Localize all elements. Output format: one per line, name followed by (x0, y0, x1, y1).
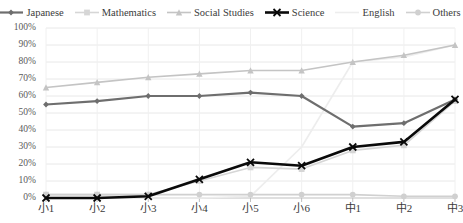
data-point-marker-diamond (248, 90, 254, 96)
data-point-marker-diamond (94, 98, 100, 104)
x-axis-tick-label: 小4 (191, 202, 208, 214)
data-point-marker-circle (196, 192, 202, 198)
data-point-marker-diamond (43, 102, 49, 108)
legend-label: Japanese (26, 7, 63, 18)
legend-label: Social Studies (194, 7, 254, 18)
legend-item-english[interactable]: English (335, 7, 394, 18)
plot-area: 100%90%80%70%60%50%40%30%20%10%0% 小1小2小3… (0, 22, 460, 223)
legend-item-social-studies[interactable]: Social Studies (167, 7, 254, 18)
x-axis-tick-label: 小6 (293, 202, 310, 214)
legend-item-science[interactable]: Science (265, 7, 325, 18)
legend-label: Science (292, 7, 325, 18)
data-point-marker-circle (452, 193, 458, 199)
legend-marker-circle (415, 9, 421, 15)
legend-swatch-icon (167, 7, 191, 18)
data-point-marker-circle (248, 192, 254, 198)
legend-swatch-icon (406, 7, 430, 18)
data-point-marker-circle (401, 193, 407, 199)
legend-swatch-icon (335, 7, 359, 18)
legend-marker-diamond (9, 9, 15, 15)
data-point-marker-diamond (196, 93, 202, 99)
legend-swatch-icon (265, 7, 289, 18)
x-axis-tick-label: 中2 (396, 202, 413, 214)
x-axis-tick-label: 小1 (38, 202, 55, 214)
legend-swatch-icon (75, 7, 99, 18)
chart-canvas (0, 22, 460, 223)
data-point-marker-circle (350, 192, 356, 198)
legend-swatch-icon (0, 7, 23, 18)
x-axis-tick-label: 中3 (447, 202, 463, 214)
x-axis-tick-label: 中1 (345, 202, 362, 214)
gridlines (46, 28, 455, 198)
legend-label: Others (433, 7, 461, 18)
chart-legend: JapaneseMathematicsSocial StudiesScience… (0, 2, 460, 22)
x-axis-tick-label: 小2 (89, 202, 106, 214)
legend-item-japanese[interactable]: Japanese (0, 7, 64, 18)
plot-lines (0, 22, 460, 223)
x-axis-tick-label: 小3 (140, 202, 157, 214)
legend-label: English (362, 7, 394, 18)
data-point-marker-diamond (145, 93, 151, 99)
legend-item-others[interactable]: Others (406, 7, 461, 18)
x-axis-tick-label: 小5 (242, 202, 259, 214)
data-point-marker-circle (299, 192, 305, 198)
legend-marker-square (84, 9, 90, 15)
x-axis-labels: 小1小2小3小4小5小6中1中2中3 (44, 202, 456, 222)
legend-label: Mathematics (102, 7, 156, 18)
legend-item-mathematics[interactable]: Mathematics (75, 7, 156, 18)
